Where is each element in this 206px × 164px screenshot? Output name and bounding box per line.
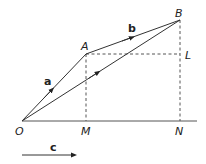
label-A: A (80, 40, 89, 53)
vector-a-line (22, 54, 86, 121)
vector-b-arrowhead (122, 37, 132, 41)
label-O: O (15, 125, 24, 138)
label-L: L (185, 49, 191, 62)
label-M: M (81, 125, 91, 138)
vector-a-arrowhead (44, 90, 52, 98)
label-N: N (175, 125, 183, 138)
label-vector-b: b (128, 22, 136, 35)
vector-OB-line (22, 20, 180, 121)
label-vector-a: a (44, 75, 51, 88)
label-B: B (175, 7, 183, 20)
label-vector-c: c (50, 141, 57, 154)
vector-OB-arrowhead (88, 72, 98, 78)
vector-diagram: O A B L M N a b c (0, 0, 206, 164)
